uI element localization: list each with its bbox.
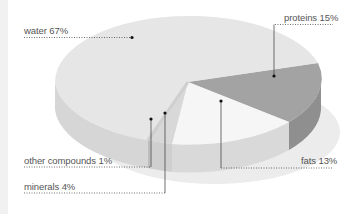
other-compounds-side [148, 140, 150, 169]
label-minerals: minerals 4% [24, 181, 75, 192]
label-proteins: proteins 15% [284, 12, 338, 23]
label-fats: fats 13% [301, 155, 337, 166]
minerals-side [150, 141, 172, 173]
label-other-compounds: other compounds 1% [24, 155, 112, 166]
label-water: water 67% [24, 25, 68, 36]
